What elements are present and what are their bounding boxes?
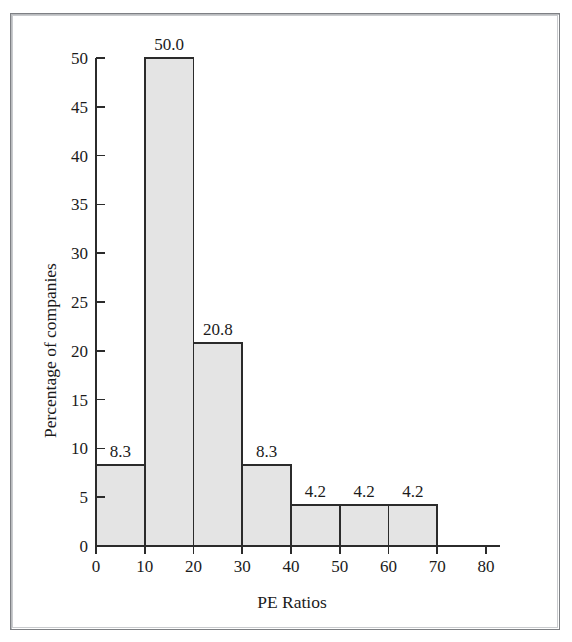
y-axis-tick-label: 0 bbox=[36, 538, 88, 555]
bar-value-label: 4.2 bbox=[305, 483, 326, 500]
histogram-bar bbox=[96, 465, 145, 546]
x-axis-tick-label: 30 bbox=[234, 558, 251, 575]
x-axis-tick-label: 0 bbox=[92, 558, 101, 575]
y-axis-tick-label: 30 bbox=[36, 245, 88, 262]
y-axis-tick-label: 45 bbox=[36, 98, 88, 115]
x-axis-tick-label: 50 bbox=[331, 558, 348, 575]
y-axis-tick-label: 40 bbox=[36, 147, 88, 164]
y-axis-tick-label: 35 bbox=[36, 196, 88, 213]
histogram-plot: 05101520253035404550 01020304050607080 8… bbox=[0, 0, 572, 642]
figure-container: 05101520253035404550 01020304050607080 8… bbox=[0, 0, 572, 642]
bar-value-label: 8.3 bbox=[256, 443, 277, 460]
x-axis-tick-label: 70 bbox=[429, 558, 446, 575]
y-axis-tick-label: 10 bbox=[36, 440, 88, 457]
bar-value-label: 20.8 bbox=[203, 321, 233, 338]
y-axis-title: Percentage of companies bbox=[40, 263, 61, 438]
y-axis-tick-label: 50 bbox=[36, 50, 88, 67]
histogram-bar bbox=[145, 58, 194, 546]
x-axis-title: PE Ratios bbox=[257, 592, 327, 613]
x-axis-tick-label: 40 bbox=[283, 558, 300, 575]
x-axis-tick-label: 20 bbox=[185, 558, 202, 575]
histogram-bar bbox=[242, 465, 291, 546]
histogram-bar bbox=[389, 505, 438, 546]
x-axis-tick-label: 10 bbox=[136, 558, 153, 575]
bar-value-label: 4.2 bbox=[354, 483, 375, 500]
y-axis-tick-label: 5 bbox=[36, 489, 88, 506]
x-axis-tick-label: 80 bbox=[478, 558, 495, 575]
bars-group bbox=[96, 58, 437, 546]
bar-value-label: 50.0 bbox=[154, 36, 184, 53]
histogram-bar bbox=[194, 343, 243, 546]
histogram-bar bbox=[340, 505, 389, 546]
bar-value-label: 4.2 bbox=[402, 483, 423, 500]
bar-value-label: 8.3 bbox=[110, 443, 131, 460]
x-axis-tick-label: 60 bbox=[380, 558, 397, 575]
histogram-bar bbox=[291, 505, 340, 546]
